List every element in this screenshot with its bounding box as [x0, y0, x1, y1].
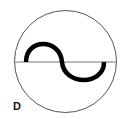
diagram-label: D: [13, 101, 21, 112]
